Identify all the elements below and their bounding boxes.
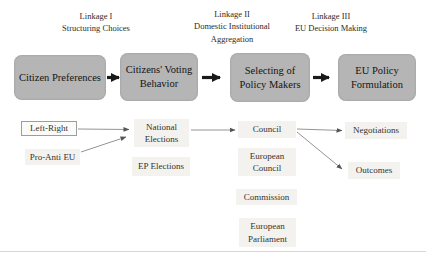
box-commission: Commission (236, 189, 297, 205)
box-ep-elections: EP Elections (132, 157, 190, 176)
box-eu-policy-formulation: EU Policy Formulation (338, 54, 416, 101)
arrow-leftright-to-national (78, 129, 129, 130)
box-pro-anti-eu: Pro-Anti EU (25, 149, 80, 165)
heading-linkage-3: Linkage III EU Decision Making (283, 10, 379, 35)
heading-linkage-2: Linkage II Domestic Institutional Aggreg… (174, 8, 290, 45)
box-outcomes: Outcomes (348, 162, 400, 179)
box-council: Council (238, 121, 296, 138)
linkage-flow-diagram: Linkage I Structuring Choices Linkage II… (0, 0, 426, 255)
box-citizens-voting-behavior: Citizens' Voting Behavior (120, 53, 198, 101)
arrow-proanti-to-national (81, 137, 126, 152)
box-negotiations: Negotiations (345, 122, 407, 139)
box-left-right: Left-Right (21, 121, 77, 136)
box-citizen-preferences: Citizen Preferences (14, 55, 106, 100)
arrow-council-to-negotiations (297, 129, 342, 131)
heading-linkage-1: Linkage I Structuring Choices (48, 10, 144, 35)
box-european-parliament: European Parliament (239, 218, 296, 247)
box-european-council: European Council (238, 148, 296, 176)
figure-bottom-rule (0, 251, 426, 252)
box-selecting-policy-makers: Selecting of Policy Makers (230, 53, 310, 102)
arrow-council-to-outcomes (297, 132, 342, 169)
box-national-elections: National Elections (134, 119, 189, 147)
